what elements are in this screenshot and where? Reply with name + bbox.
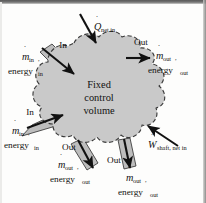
comma-outlet-upper-right: ,	[175, 54, 177, 61]
scan-artifact-right-edge	[203, 0, 206, 203]
mdot-accent-outlet-upper-right: ̇	[158, 45, 160, 46]
shaft-dot-accent: ̇	[151, 134, 153, 135]
mdot-subscript-outlet-bottom-right: out	[133, 177, 141, 184]
energy-label-outlet-upper-right: energy	[148, 65, 173, 75]
control-volume-caption: Fixed control volume	[83, 79, 115, 116]
heat-dot-accent: ̇	[96, 16, 98, 17]
scan-artifact-left-edge	[0, 2, 2, 203]
mdot-accent-outlet-bottom-left: ̇	[60, 154, 62, 155]
energy-subscript-outlet-upper-right: out	[180, 69, 188, 76]
port-kind-outlet-bottom-right: Out	[107, 155, 121, 165]
port-kind-inlet-upper-left: In	[59, 40, 67, 50]
comma-inlet-upper-left: ,	[38, 55, 40, 62]
energy-subscript-outlet-bottom-left: out	[82, 178, 90, 185]
port-kind-outlet-bottom-left: Out	[62, 142, 76, 152]
port-kind-outlet-upper-right: Out	[134, 37, 148, 47]
mdot-subscript-outlet-bottom-left: out	[65, 164, 73, 171]
energy-label-inlet-upper-left: energy	[8, 66, 33, 76]
label-shaft-work-net-in: ̇ W shaft, net in	[148, 134, 187, 151]
caption-line-2: control	[84, 92, 114, 103]
comma-outlet-bottom-right: ,	[145, 176, 147, 183]
mdot-accent-inlet-lower-left: ̇	[14, 120, 16, 121]
caption-line-3: volume	[83, 105, 115, 116]
mdot-accent-inlet-upper-left: ̇	[24, 46, 26, 47]
energy-subscript-inlet-upper-left: in	[38, 70, 44, 77]
figure-canvas: ̇ Q net in ̇ W shaft, net in Out In In O…	[0, 0, 206, 203]
label-heat-net-in: ̇ Q net in	[94, 16, 116, 33]
mdot-subscript-outlet-upper-right: out	[163, 55, 171, 62]
scan-artifact-top-edge	[0, 0, 206, 4]
port-label-outlet-bottom-right: ̇ m out , energy out	[118, 167, 158, 198]
energy-subscript-inlet-lower-left: in	[34, 144, 40, 151]
control-volume-diagram: ̇ Q net in ̇ W shaft, net in Out In In O…	[0, 0, 206, 203]
energy-subscript-outlet-bottom-right: out	[150, 191, 158, 198]
port-kind-inlet-lower-left: In	[26, 107, 34, 117]
mdot-subscript-inlet-upper-left: in	[29, 56, 35, 63]
shaft-subscript: shaft, net in	[157, 144, 187, 151]
comma-outlet-bottom-left: ,	[77, 163, 79, 170]
energy-label-outlet-bottom-left: energy	[50, 174, 75, 184]
heat-subscript: net in	[101, 26, 116, 33]
caption-line-1: Fixed	[87, 79, 111, 90]
energy-label-inlet-lower-left: energy	[4, 140, 29, 150]
port-label-inlet-upper-left: ̇ m in , energy in	[8, 46, 44, 77]
energy-label-outlet-bottom-right: energy	[118, 187, 143, 197]
mdot-subscript-inlet-lower-left: in	[19, 130, 25, 137]
